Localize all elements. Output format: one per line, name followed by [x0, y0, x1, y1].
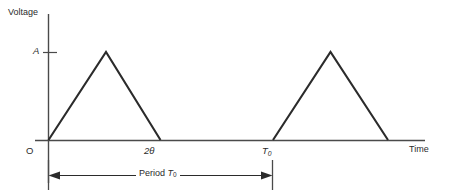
period-annotation-subscript: 0: [173, 171, 177, 178]
period-annotation-label: Period T0: [136, 169, 180, 179]
period-arrowhead-right-icon: [261, 172, 273, 180]
origin-label: O: [26, 146, 33, 156]
period-arrowhead-left-icon: [49, 172, 61, 180]
x-tick-label-half-period: 2θ: [144, 146, 154, 156]
waveform-pulse-1: [49, 52, 161, 140]
period-tick-subscript: 0: [268, 150, 272, 157]
amplitude-tick-label: A: [33, 46, 39, 56]
y-axis-label: Voltage: [8, 8, 38, 17]
period-annotation-prefix: Period: [139, 168, 168, 178]
waveform-plot: [0, 0, 454, 193]
x-tick-label-period: T0: [262, 146, 272, 157]
waveform-pulse-2: [273, 52, 388, 140]
voltage-waveform-figure: Voltage A O 2θ T0 Time Period T0: [0, 0, 454, 193]
x-axis-label: Time: [409, 145, 429, 154]
